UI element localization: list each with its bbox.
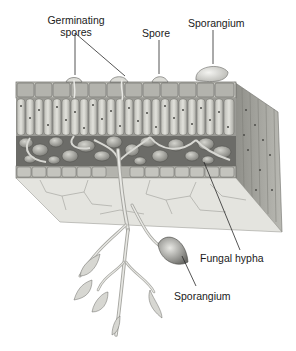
palisade-layer (16, 98, 236, 136)
label-germinating-line1: Germinating (36, 14, 116, 26)
upper-epidermis (16, 82, 236, 98)
lower-epidermis (16, 166, 236, 178)
label-germinating-spores: Germinating spores (36, 14, 116, 38)
sporangium-large (158, 237, 188, 264)
label-sporangium-bottom: Sporangium (174, 290, 231, 302)
label-spore: Spore (142, 27, 170, 39)
spore (152, 77, 168, 82)
label-germinating-line2: spores (36, 26, 116, 38)
germinating-spore-2 (110, 77, 128, 82)
leaf-cross-section-illustration (0, 0, 296, 351)
block-bottom-face (16, 178, 282, 232)
sporangium-top (196, 66, 228, 81)
spongy-mesophyll (16, 136, 236, 166)
label-fungal-hypha: Fungal hypha (200, 252, 264, 264)
leaf-fungus-diagram: Germinating spores Spore Sporangium Fung… (0, 0, 296, 351)
label-sporangium-top: Sporangium (188, 17, 245, 29)
lower-sporangia (74, 237, 188, 335)
